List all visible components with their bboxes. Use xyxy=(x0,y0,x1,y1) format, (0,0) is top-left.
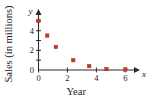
plot-canvas: 0246 024 x y Year Sales (in millions) xyxy=(0,0,153,99)
data-point-2 xyxy=(54,45,58,49)
y-tick-label-0: 0 xyxy=(30,65,34,75)
x-tick-label-4: 4 xyxy=(94,73,99,83)
data-point-5 xyxy=(105,67,109,71)
x-axis-arrowhead xyxy=(134,67,140,73)
x-tick-label-0: 0 xyxy=(36,73,40,83)
data-point-1 xyxy=(45,34,49,38)
y-tick-label-2: 2 xyxy=(30,45,34,55)
data-point-0 xyxy=(37,19,41,23)
x-tick-label-6: 6 xyxy=(123,73,127,83)
scatter-plot-figure: 0246 024 x y Year Sales (in millions) xyxy=(0,0,153,99)
x-tick-labels: 0246 xyxy=(36,73,127,83)
axes-group xyxy=(36,9,141,73)
data-point-4 xyxy=(87,64,91,68)
y-axis-arrowhead xyxy=(36,9,42,15)
y-axis-title: Sales (in millions) xyxy=(3,5,15,83)
data-markers xyxy=(37,19,127,71)
y-tick-labels: 024 xyxy=(30,26,35,75)
y-variable-label: y xyxy=(28,6,33,16)
data-point-6 xyxy=(124,68,128,72)
data-point-3 xyxy=(71,58,75,62)
x-tick-label-2: 2 xyxy=(65,73,69,83)
x-variable-label: x xyxy=(141,69,146,79)
x-axis-title: Year xyxy=(67,86,87,97)
y-tick-label-4: 4 xyxy=(30,26,35,36)
